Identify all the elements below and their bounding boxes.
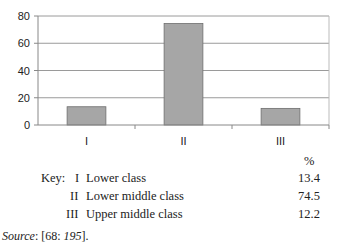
bar-I xyxy=(67,107,106,125)
x-tick-label: III xyxy=(276,135,285,147)
source-page: 195 xyxy=(64,229,82,243)
key-label: Lower class xyxy=(86,171,146,186)
key-value: 12.2 xyxy=(298,207,320,222)
key-code: II xyxy=(70,189,78,204)
key-label: Lower middle class xyxy=(86,189,184,204)
bar-chart: 020406080 IIIIII xyxy=(0,0,346,150)
key-code: I xyxy=(75,171,79,186)
key-row-1: Key: I Lower class 13.4 xyxy=(0,171,346,189)
source-text-a: : [68: xyxy=(35,229,64,243)
y-tick-labels: 020406080 xyxy=(18,10,30,131)
x-tick-label: II xyxy=(180,135,186,147)
source-note: Source: [68: 195]. xyxy=(2,229,89,244)
percent-header: % xyxy=(304,154,314,169)
source-text-b: ]. xyxy=(82,229,89,243)
x-tick-label: I xyxy=(85,135,88,147)
key-prefix: Key: xyxy=(41,171,65,186)
bar-II xyxy=(164,23,203,125)
y-tick-label: 80 xyxy=(18,10,30,22)
y-tick-label: 40 xyxy=(18,65,30,77)
y-tick-label: 0 xyxy=(24,119,30,131)
x-tick-labels: IIIIII xyxy=(85,135,285,147)
bars xyxy=(67,23,300,125)
source-label: Source xyxy=(2,229,35,243)
y-tick-label: 60 xyxy=(18,37,30,49)
key-row-3: III Upper middle class 12.2 xyxy=(0,207,346,225)
key-value: 13.4 xyxy=(298,171,320,186)
key-code: III xyxy=(66,207,79,222)
bar-III xyxy=(261,108,300,125)
key-label: Upper middle class xyxy=(86,207,183,222)
key-value: 74.5 xyxy=(298,189,320,204)
key-row-2: II Lower middle class 74.5 xyxy=(0,189,346,207)
y-tick-label: 20 xyxy=(18,92,30,104)
